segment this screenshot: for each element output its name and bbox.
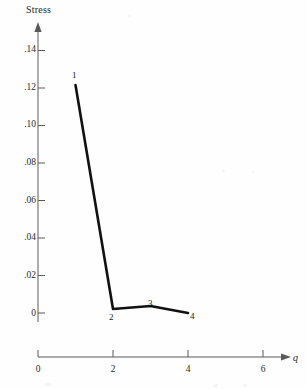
data-series-line — [76, 85, 189, 313]
plot-canvas — [0, 0, 307, 389]
y-axis-ticks — [38, 51, 45, 314]
stress-vs-q-chart: Stress q .14 .12 .10 .08 .06 .04 .02 0 0… — [0, 0, 307, 389]
x-axis-ticks — [38, 350, 263, 357]
x-axis — [38, 353, 291, 360]
y-axis — [34, 22, 41, 322]
